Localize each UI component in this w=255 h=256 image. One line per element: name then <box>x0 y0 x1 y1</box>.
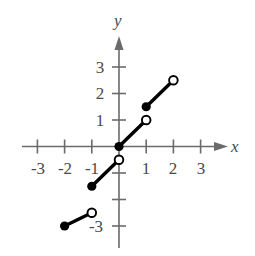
x-tick-label-pos3: 3 <box>194 160 208 177</box>
coordinate-plane <box>0 0 255 256</box>
x-axis-label: x <box>231 138 239 155</box>
x-tick-label-neg3: -3 <box>27 160 49 177</box>
open-endpoint-marker <box>115 155 124 164</box>
y-axis-label: y <box>114 12 122 29</box>
open-endpoint-marker <box>169 76 178 85</box>
y-tick-label-pos1: 1 <box>93 112 107 129</box>
x-tick-label-neg1: -1 <box>81 160 103 177</box>
closed-endpoint-marker <box>142 102 151 111</box>
y-tick-label-pos3: 3 <box>93 59 107 76</box>
closed-endpoint-marker <box>60 221 69 230</box>
closed-endpoint-marker <box>87 182 96 191</box>
x-tick-label-pos1: 1 <box>139 160 153 177</box>
graph-figure: -3 -2 -1 1 2 3 3 2 1 -3 y x <box>0 0 255 256</box>
x-tick-label-neg2: -2 <box>54 160 76 177</box>
x-axis <box>22 142 228 151</box>
open-endpoint-marker <box>88 208 97 217</box>
closed-endpoint-marker <box>114 142 123 151</box>
y-tick-label-neg3: -3 <box>85 218 107 235</box>
data-segment-4 <box>142 76 178 111</box>
y-tick-label-pos2: 2 <box>93 85 107 102</box>
x-tick-label-pos2: 2 <box>166 160 180 177</box>
open-endpoint-marker <box>142 116 151 125</box>
